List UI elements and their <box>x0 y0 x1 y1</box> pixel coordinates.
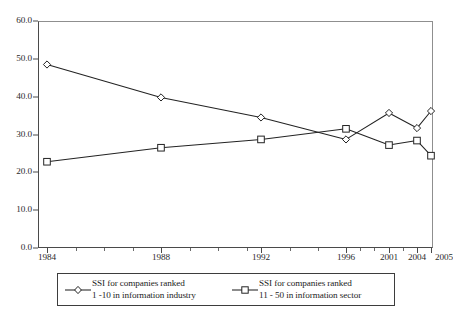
data-point-marker <box>414 137 421 144</box>
series-line-rank-1-10 <box>47 65 431 140</box>
data-point-marker <box>343 126 350 133</box>
diamond-marker-icon <box>64 283 92 297</box>
data-point-marker <box>158 144 165 151</box>
legend-label-rank-1-10: SSI for companies ranked 1 -10 in inform… <box>92 278 196 300</box>
data-point-marker <box>257 114 264 121</box>
legend-label-line2: 11 - 50 in information sector <box>259 290 361 301</box>
data-point-marker <box>258 136 265 143</box>
series-line-rank-11-50 <box>47 129 431 162</box>
data-point-marker <box>44 158 51 165</box>
legend-label-line1: SSI for companies ranked <box>92 278 196 289</box>
series-markers-rank-1-10 <box>43 61 434 143</box>
legend-label-rank-11-50: SSI for companies ranked 11 - 50 in info… <box>259 278 361 300</box>
data-point-marker <box>157 94 164 101</box>
square-marker-icon <box>231 283 259 297</box>
data-point-marker <box>43 61 50 68</box>
legend-entry-rank-1-10: SSI for companies ranked 1 -10 in inform… <box>58 274 229 305</box>
data-point-marker <box>428 152 435 159</box>
legend-entry-rank-11-50: SSI for companies ranked 11 - 50 in info… <box>229 274 394 305</box>
data-point-marker <box>386 142 393 149</box>
series-markers-rank-11-50 <box>44 126 435 166</box>
data-point-marker <box>342 136 349 143</box>
data-point-marker <box>385 109 392 116</box>
legend-label-line1: SSI for companies ranked <box>259 278 361 289</box>
chart-legend: SSI for companies ranked 1 -10 in inform… <box>57 273 395 306</box>
legend-label-line2: 1 -10 in information industry <box>92 290 196 301</box>
